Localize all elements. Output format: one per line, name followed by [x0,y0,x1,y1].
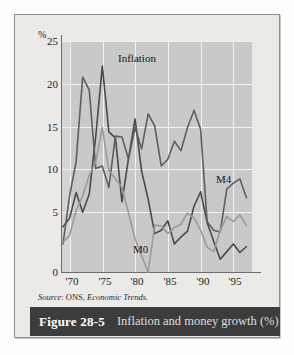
series-label-m0: M0 [133,243,148,255]
figure-number: Figure 28-5 [39,314,105,330]
x-tick-1970: '70 [66,275,79,287]
x-tick-1995: '95 [229,275,242,287]
chart-plot-area: % 25 20 15 10 5 0 '70 '75 '80 '85 '90 '9… [30,29,266,277]
source-rest: : ONS, [61,292,87,302]
source-publication: Economic Trends. [87,292,148,302]
series-label-m4: M4 [216,173,231,185]
y-axis-labels: % 25 20 15 10 5 0 [30,29,58,277]
x-tick-1975: '75 [99,275,112,287]
figure-frame: % 25 20 15 10 5 0 '70 '75 '80 '85 '90 '9… [14,14,280,338]
series-line-m4 [63,77,246,244]
series-lines [61,41,261,273]
y-tick-0: 0 [32,267,58,278]
source-note: Source: ONS, Economic Trends. [38,292,148,302]
y-tick-5: 5 [32,207,58,218]
x-tick-1990: '90 [197,275,210,287]
y-tick-20: 20 [32,79,58,90]
y-tick-25: 25 [32,36,58,47]
series-line-m0 [63,128,246,273]
series-label-inflation: Inflation [118,52,156,64]
x-tick-1980: '80 [131,275,144,287]
figure-caption-text: Inflation and money growth (%) [117,314,279,329]
y-tick-15: 15 [32,122,58,133]
y-tick-10: 10 [32,164,58,175]
figure-caption-bar: Figure 28-5 Inflation and money growth (… [30,307,280,336]
figure-container: % 25 20 15 10 5 0 '70 '75 '80 '85 '90 '9… [0,0,294,355]
x-tick-1985: '85 [164,275,177,287]
source-prefix: Source [38,292,61,302]
